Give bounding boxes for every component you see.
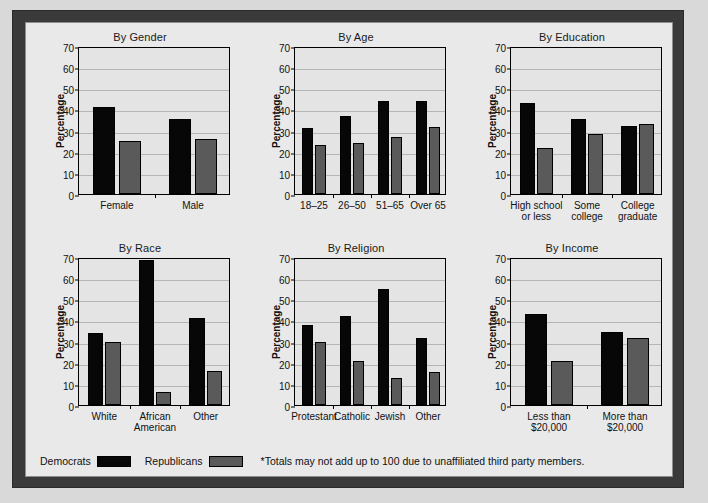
plot-area: 010203040506070High school or lessSome c… xyxy=(510,47,662,195)
y-tick-label: 20 xyxy=(63,359,74,370)
bar-republicans xyxy=(353,361,364,405)
y-tick-label: 50 xyxy=(279,296,290,307)
y-tick-mark xyxy=(291,90,295,91)
plot-area: 01020304050607018–2526–5051–65Over 65 xyxy=(294,47,446,195)
chart-panel: By EducationPercentage010203040506070Hig… xyxy=(464,31,680,242)
y-tick-label: 70 xyxy=(63,254,74,265)
legend-label-democrats: Democrats xyxy=(40,455,91,467)
bar-democrats xyxy=(520,103,535,194)
legend-swatch-democrats xyxy=(97,456,131,467)
gridline xyxy=(511,69,661,70)
y-tick-mark xyxy=(75,259,79,260)
x-tick-mark xyxy=(562,194,563,198)
panel-title: By Gender xyxy=(32,31,248,43)
y-tick-mark xyxy=(507,48,511,49)
bar-republicans xyxy=(207,371,222,405)
bar-republicans xyxy=(391,378,402,405)
y-tick-label: 10 xyxy=(63,380,74,391)
y-axis-label: Percentage xyxy=(487,94,498,148)
x-tick-label: More than $20,000 xyxy=(581,411,669,433)
bar-republicans xyxy=(315,145,326,194)
bar-republicans xyxy=(627,338,649,405)
y-tick-label: 10 xyxy=(279,380,290,391)
y-tick-label: 70 xyxy=(495,254,506,265)
y-tick-label: 60 xyxy=(495,64,506,75)
y-tick-mark xyxy=(507,385,511,386)
legend-footnote: *Totals may not add up to 100 due to una… xyxy=(261,455,585,467)
y-tick-mark xyxy=(507,343,511,344)
gridline xyxy=(295,69,445,70)
y-tick-mark xyxy=(75,301,79,302)
bar-democrats xyxy=(93,107,115,194)
panel-title: By Education xyxy=(464,31,680,43)
y-tick-label: 60 xyxy=(279,275,290,286)
y-tick-label: 50 xyxy=(279,85,290,96)
bar-democrats xyxy=(416,338,427,405)
y-tick-mark xyxy=(75,343,79,344)
x-tick-label: Over 65 xyxy=(403,200,453,211)
y-tick-label: 30 xyxy=(63,127,74,138)
bar-republicans xyxy=(639,124,654,194)
y-tick-mark xyxy=(75,90,79,91)
y-tick-mark xyxy=(507,111,511,112)
y-tick-label: 30 xyxy=(279,338,290,349)
y-tick-label: 40 xyxy=(495,317,506,328)
figure-canvas: By GenderPercentage010203040506070Female… xyxy=(25,22,673,477)
y-tick-mark xyxy=(291,280,295,281)
bar-democrats xyxy=(340,316,351,405)
y-tick-label: 70 xyxy=(279,43,290,54)
bar-republicans xyxy=(429,372,440,405)
bar-democrats xyxy=(416,101,427,194)
y-tick-label: 20 xyxy=(279,148,290,159)
y-tick-mark xyxy=(75,407,79,408)
bar-democrats xyxy=(378,101,389,194)
x-tick-mark xyxy=(333,194,334,198)
y-tick-label: 40 xyxy=(279,317,290,328)
legend-label-republicans: Republicans xyxy=(145,455,203,467)
x-tick-label: Less than $20,000 xyxy=(505,411,593,433)
figure-legend: Democrats Republicans *Totals may not ad… xyxy=(26,447,674,475)
bar-democrats xyxy=(621,126,636,194)
y-tick-label: 20 xyxy=(495,148,506,159)
y-tick-label: 50 xyxy=(63,85,74,96)
y-tick-mark xyxy=(507,301,511,302)
y-tick-label: 10 xyxy=(63,169,74,180)
bar-democrats xyxy=(340,116,351,194)
x-tick-label: Female xyxy=(73,200,161,211)
gridline xyxy=(295,280,445,281)
y-tick-label: 30 xyxy=(495,127,506,138)
y-tick-label: 40 xyxy=(63,106,74,117)
y-tick-label: 30 xyxy=(63,338,74,349)
y-tick-label: 20 xyxy=(279,359,290,370)
bar-republicans xyxy=(588,134,603,194)
y-tick-label: 50 xyxy=(495,296,506,307)
legend-swatch-republicans xyxy=(209,456,243,467)
y-tick-mark xyxy=(75,364,79,365)
x-tick-mark xyxy=(130,405,131,409)
y-tick-mark xyxy=(75,69,79,70)
y-tick-label: 60 xyxy=(63,275,74,286)
y-tick-mark xyxy=(507,407,511,408)
y-tick-mark xyxy=(291,322,295,323)
x-tick-label: Other xyxy=(174,411,237,422)
y-tick-mark xyxy=(507,364,511,365)
y-tick-mark xyxy=(507,196,511,197)
y-tick-label: 60 xyxy=(279,64,290,75)
plot-area: 010203040506070Less than $20,000More tha… xyxy=(510,258,662,406)
gridline xyxy=(79,90,229,91)
y-tick-label: 50 xyxy=(495,85,506,96)
bar-republicans xyxy=(119,141,141,194)
y-tick-mark xyxy=(291,196,295,197)
panel-title: By Age xyxy=(248,31,464,43)
y-tick-mark xyxy=(291,407,295,408)
y-tick-mark xyxy=(75,174,79,175)
figure-frame: By GenderPercentage010203040506070Female… xyxy=(12,10,684,488)
x-tick-mark xyxy=(409,405,410,409)
legend-item-democrats: Democrats xyxy=(40,455,131,467)
gridline xyxy=(511,90,661,91)
y-tick-label: 10 xyxy=(279,169,290,180)
bar-republicans xyxy=(537,148,552,195)
y-tick-mark xyxy=(75,322,79,323)
y-tick-label: 20 xyxy=(495,359,506,370)
y-tick-mark xyxy=(291,301,295,302)
